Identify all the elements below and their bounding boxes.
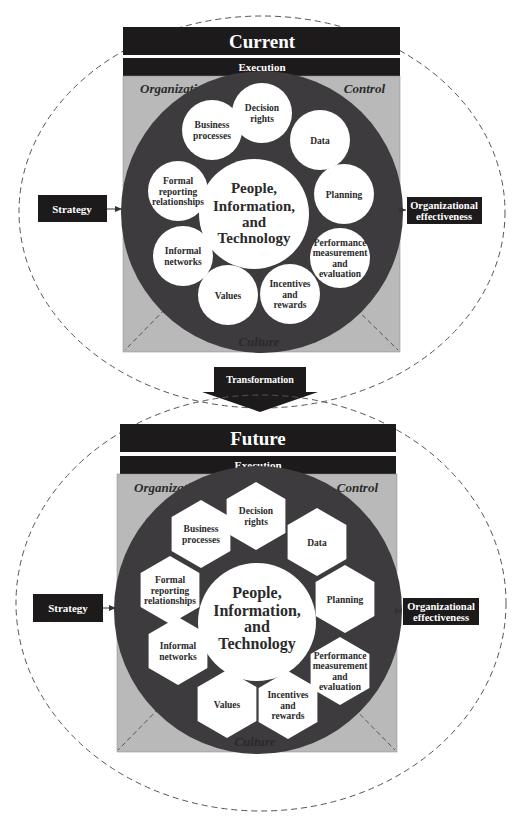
- future-node-label: rewards: [271, 711, 304, 721]
- future-node-label: Formal: [155, 575, 185, 585]
- future-outcome-line1: Organizational: [407, 601, 475, 612]
- current-node-formal-reporting: Formalreportingrelationships: [148, 161, 208, 221]
- current-node-label: reporting: [159, 187, 198, 197]
- future-node-label: networks: [159, 652, 197, 662]
- current-node-label: Informal: [165, 246, 202, 256]
- transformation-arrow: Transformation: [202, 367, 318, 412]
- current-node-performance: Performancemeasurementandevaluation: [310, 228, 370, 288]
- current-node-label: Data: [310, 136, 330, 146]
- future-node-label: Decision: [239, 506, 274, 516]
- future-control-label: Control: [337, 480, 379, 495]
- current-node-label: relationships: [152, 197, 204, 207]
- future-node-label: Data: [307, 538, 327, 548]
- current-node-incentives: Incentivesandrewards: [260, 264, 320, 324]
- future-node-label: Incentives: [267, 690, 308, 700]
- future-node-label: and: [332, 672, 348, 682]
- current-culture-label: Culture: [238, 334, 279, 349]
- future-center-line3: and: [244, 618, 270, 635]
- future-node-label: and: [280, 701, 296, 711]
- current-node-label: measurement: [313, 248, 369, 258]
- current-node-label: evaluation: [319, 269, 362, 279]
- future-node-label: Business: [184, 524, 219, 534]
- current-title: Current: [229, 31, 296, 52]
- current-node-label: Business: [195, 120, 230, 130]
- current-node-label: Planning: [326, 190, 363, 200]
- current-node-label: rewards: [273, 300, 306, 310]
- future-node-label: measurement: [313, 661, 369, 671]
- current-center-line4: Technology: [218, 230, 291, 246]
- future-node-label: Values: [214, 700, 241, 710]
- current-node-label: Performance: [314, 238, 367, 248]
- current-node-label: Values: [215, 291, 242, 301]
- current-node-label: networks: [164, 257, 202, 267]
- future-node-label: Planning: [327, 595, 364, 605]
- current-center-line3: and: [242, 214, 267, 230]
- current-strategy-label: Strategy: [52, 203, 92, 215]
- current-node-label: Formal: [163, 176, 193, 186]
- future-node-label: Informal: [160, 641, 197, 651]
- current-node-business-processes: Businessprocesses: [182, 100, 242, 160]
- current-node-label: Incentives: [269, 279, 310, 289]
- transformation-diagram: Current Execution Organization Control C…: [0, 0, 520, 828]
- transformation-label: Transformation: [226, 374, 294, 385]
- current-node-informal-networks: Informalnetworks: [153, 226, 213, 286]
- current-node-planning: Planning: [314, 164, 374, 224]
- future-title: Future: [230, 428, 286, 449]
- future-node-label: Performance: [314, 651, 367, 661]
- future-strategy-label: Strategy: [48, 602, 88, 614]
- current-node-label: and: [332, 259, 348, 269]
- future-outcome-line2: effectiveness: [413, 612, 469, 623]
- future-culture-label: Culture: [234, 734, 275, 749]
- future-center-line4: Technology: [218, 635, 296, 653]
- future-node-label: reporting: [151, 586, 190, 596]
- future-node-label: rights: [244, 517, 268, 527]
- current-center-line1: People,: [231, 180, 277, 196]
- current-node-label: and: [282, 290, 298, 300]
- current-node-label: rights: [250, 114, 274, 124]
- current-outcome-line2: effectiveness: [416, 211, 472, 222]
- current-outcome-line1: Organizational: [410, 200, 478, 211]
- future-center-line1: People,: [232, 584, 281, 602]
- future-center-line2: Information,: [213, 602, 301, 619]
- future-node-label: relationships: [144, 596, 196, 606]
- current-center-line2: Information,: [213, 198, 295, 214]
- current-node-label: Decision: [245, 103, 280, 113]
- current-node-label: processes: [193, 131, 231, 141]
- future-node-label: evaluation: [319, 682, 362, 692]
- future-node-label: processes: [182, 535, 220, 545]
- current-node-data: Data: [290, 110, 350, 170]
- current-control-label: Control: [344, 81, 386, 96]
- current-section: Current Execution Organization Control C…: [19, 16, 505, 408]
- future-section: Future Execution Organization Control Cu…: [16, 395, 506, 811]
